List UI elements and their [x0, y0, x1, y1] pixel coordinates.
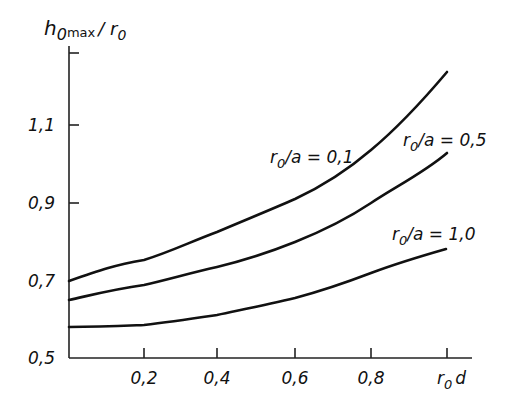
y-tick-label: 1,1: [28, 115, 55, 135]
x-tick-label: 0,8: [357, 368, 384, 388]
y-axis-title: h0max/ r0: [44, 16, 126, 44]
curve-label-0-1: r0/a = 0,1: [270, 147, 354, 171]
curve-r0a-0-1: [69, 72, 447, 281]
x-tick-label: 0,2: [130, 368, 157, 388]
y-tick-label: 0,7: [28, 271, 55, 291]
chart: h0max/ r0 0,5 0,7 0,9 1,1 0,2 0,4 0,6 0,…: [0, 0, 511, 406]
x-axis-title: r0d: [437, 368, 466, 392]
curve-r0a-0-5: [69, 153, 447, 300]
x-tick-label: 0,4: [203, 368, 230, 388]
axes: [69, 46, 472, 358]
y-tick-label: 0,9: [28, 193, 55, 213]
curve-label-1-0: r0/a = 1,0: [392, 224, 476, 248]
x-tick-label: 0,6: [281, 368, 308, 388]
y-tick-label: 0,5: [28, 348, 55, 368]
curve-label-0-5: r0/a = 0,5: [403, 130, 487, 154]
